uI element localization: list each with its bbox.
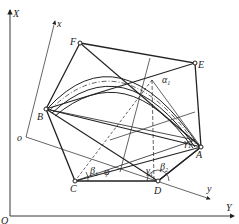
arc-dashdot: [50, 81, 197, 146]
label-phi: φ: [104, 166, 110, 177]
label-a: A: [195, 149, 203, 160]
label-d: D: [153, 185, 162, 196]
arcs: [48, 77, 199, 148]
label-local-y: y: [206, 183, 212, 194]
label-global-y: Y: [226, 202, 233, 213]
point-e: [193, 61, 197, 65]
label-b: B: [37, 111, 43, 122]
label-alpha1: α1: [162, 74, 170, 86]
point-f: [78, 41, 82, 45]
point-d: [156, 179, 160, 183]
label-local-o: o: [17, 132, 22, 143]
hexagon-outline: [46, 43, 201, 181]
label-local-x: x: [56, 18, 62, 29]
label-global-x: X: [12, 8, 20, 19]
label-f: F: [69, 36, 77, 47]
label-beta2: β2: [159, 161, 168, 173]
local-y-axis: [26, 137, 210, 199]
global-axes: [10, 10, 234, 216]
hexagon: [46, 43, 201, 181]
local-axes: [26, 21, 210, 199]
point-b: [44, 107, 48, 111]
diagram-canvas: X O Y x o y F E B A C D α1 β1 φ γ1 β2 γ1: [0, 0, 239, 224]
label-e: E: [197, 59, 204, 70]
label-c: C: [70, 183, 77, 194]
label-gamma1-d: γ1: [146, 165, 153, 177]
label-beta1: β1: [89, 165, 98, 177]
label-origin-o: O: [1, 215, 8, 224]
